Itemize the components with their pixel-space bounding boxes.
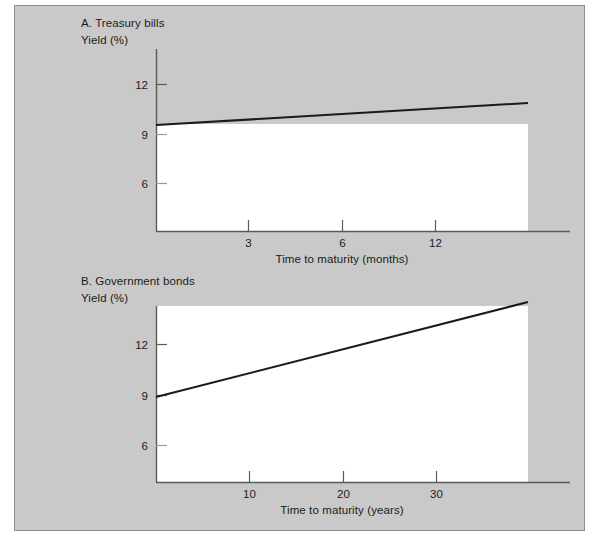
panel-treasury-bills: A. Treasury bills Yield (%) 12 9 6 [15,6,586,269]
panel-a-x-ticklabel-2: 12 [429,237,442,249]
panel-b-plot: 12 9 6 10 20 30 [15,261,586,524]
panel-a-y-ticklabel-0: 12 [135,79,148,91]
panel-a-y-ticklabel-1: 9 [142,129,148,141]
figure-root: A. Treasury bills Yield (%) 12 9 6 [0,0,599,542]
panel-a-plot-area [156,124,528,231]
panel-a-x-ticklabel-1: 6 [339,237,345,249]
panel-b-x-axis-title: Time to maturity (years) [156,504,528,516]
figure-canvas: A. Treasury bills Yield (%) 12 9 6 [14,5,585,531]
panel-b-y-ticklabel-2: 6 [142,440,148,452]
panel-a-x-ticklabel-0: 3 [245,237,251,249]
panel-b-y-ticklabel-0: 12 [135,339,148,351]
panel-a-plot: 12 9 6 3 6 12 [15,6,586,269]
panel-government-bonds: B. Government bonds Yield (%) 12 9 6 [15,261,586,524]
panel-b-plot-area [156,306,528,482]
panel-a-yield-curve [156,103,528,125]
panel-b-y-ticklabel-1: 9 [142,390,148,402]
panel-b-x-ticklabel-0: 10 [243,488,256,500]
panel-b-x-ticklabel-2: 30 [430,488,443,500]
panel-a-y-ticklabel-2: 6 [142,178,148,190]
panel-b-x-ticklabel-1: 20 [337,488,350,500]
